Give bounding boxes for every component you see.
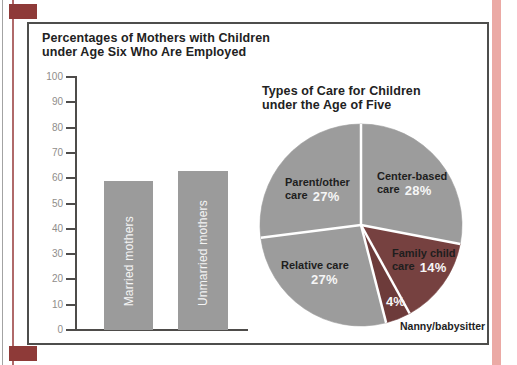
pie-pct-family: 14% — [420, 260, 447, 275]
y-axis-tick-30 — [66, 253, 76, 255]
y-axis-tick-10 — [66, 304, 76, 306]
pie-label-family-line2: care — [392, 260, 415, 272]
bar-chart-title: Percentages of Mothers with Children und… — [42, 31, 292, 59]
pie-pct-center: 28% — [405, 183, 432, 198]
bar-chart-title-line2: under Age Six Who Are Employed — [42, 45, 246, 59]
bar-unmarried-mothers: Unmarried mothers — [178, 171, 228, 330]
pie-chart-title-line2: under the Age of Five — [262, 98, 391, 112]
pie-label-parent-other-care: Parent/other care27% — [285, 176, 350, 201]
y-axis-tick-90 — [66, 101, 76, 103]
pie-pct-nanny: 4% — [386, 296, 405, 309]
pie-label-relative-line1: Relative care — [281, 259, 349, 271]
pie-label-center-line2: care — [377, 183, 400, 195]
y-axis-label-70: 70 — [29, 147, 63, 158]
pie-label-nanny-babysitter: Nanny/babysitter — [400, 320, 485, 333]
y-axis-label-10: 10 — [29, 299, 63, 310]
page-canvas: Percentages of Mothers with Children und… — [0, 0, 517, 365]
pie-label-center-based-care: Center-based care28% — [377, 170, 447, 195]
page-edge-line-inner — [12, 0, 14, 365]
pie-label-parent-line2: care — [285, 189, 308, 201]
y-axis-label-20: 20 — [29, 273, 63, 284]
y-axis-label-80: 80 — [29, 122, 63, 133]
bar-label-married: Married mothers — [122, 216, 136, 306]
y-axis-tick-labels: 0102030405060708090100 — [29, 0, 63, 365]
pie-pct-parent: 27% — [313, 189, 340, 204]
y-axis-tick-20 — [66, 278, 76, 280]
bar-label-unmarried: Unmarried mothers — [196, 200, 210, 306]
page-edge-strip-right — [492, 0, 501, 365]
y-axis-label-40: 40 — [29, 223, 63, 234]
pie-label-center-line1: Center-based — [377, 170, 447, 182]
pie-pct-relative: 27% — [311, 272, 338, 287]
y-axis-label-90: 90 — [29, 96, 63, 107]
pie-chart — [258, 122, 464, 328]
pie-chart-title: Types of Care for Children under the Age… — [262, 84, 482, 112]
y-axis-label-0: 0 — [29, 324, 63, 335]
y-axis-tick-70 — [66, 152, 76, 154]
pie-label-parent-line1: Parent/other — [285, 176, 350, 188]
y-axis-label-60: 60 — [29, 172, 63, 183]
y-axis-tick-100 — [66, 76, 76, 78]
pie-label-family-child-care: Family child care14% — [392, 247, 456, 272]
page-edge-line-outer — [2, 0, 3, 365]
y-axis-tick-60 — [66, 177, 76, 179]
pie-label-relative-care: Relative care 27% — [281, 259, 349, 284]
y-axis-tick-50 — [66, 203, 76, 205]
y-axis-label-100: 100 — [29, 71, 63, 82]
pie-label-family-line1: Family child — [392, 247, 456, 259]
bar-married-mothers: Married mothers — [104, 181, 153, 330]
y-axis-label-30: 30 — [29, 248, 63, 259]
pie-chart-title-line1: Types of Care for Children — [262, 84, 421, 98]
y-axis-tick-0 — [66, 329, 76, 331]
bar-chart-title-line1: Percentages of Mothers with Children — [42, 31, 270, 45]
y-axis-tick-80 — [66, 127, 76, 129]
y-axis-label-50: 50 — [29, 198, 63, 209]
y-axis-tick-40 — [66, 228, 76, 230]
